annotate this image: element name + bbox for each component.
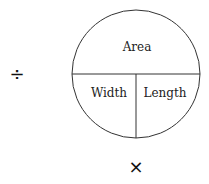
formula-circle-diagram: Area Width Length ÷ × [0, 0, 209, 184]
area-label: Area [122, 40, 152, 54]
multiply-icon: × [128, 156, 143, 177]
divide-icon: ÷ [9, 63, 24, 84]
length-label: Length [143, 86, 186, 100]
width-label: Width [91, 86, 127, 100]
